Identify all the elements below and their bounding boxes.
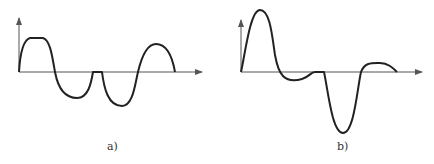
panel-a bbox=[19, 18, 202, 106]
figure-canvas bbox=[0, 0, 434, 164]
panel-b-label: b) bbox=[337, 140, 348, 153]
panel-a-label: a) bbox=[107, 140, 118, 153]
panel-b bbox=[241, 10, 422, 133]
